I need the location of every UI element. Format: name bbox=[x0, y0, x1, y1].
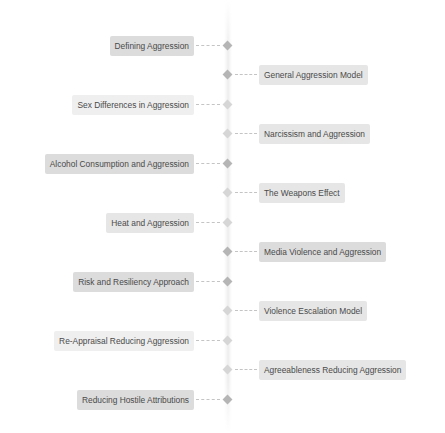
topic-label[interactable]: Heat and Aggression bbox=[106, 213, 194, 233]
timeline-item: Heat and Aggression bbox=[0, 213, 445, 233]
connector-line bbox=[196, 163, 220, 164]
diamond-node-icon bbox=[223, 129, 233, 139]
topic-label[interactable]: Sex Differences in Aggression bbox=[72, 95, 194, 115]
diamond-node-icon bbox=[223, 41, 233, 51]
connector-line bbox=[196, 45, 220, 46]
topic-label[interactable]: The Weapons Effect bbox=[259, 183, 345, 203]
diamond-node-icon bbox=[223, 395, 233, 405]
connector-line bbox=[235, 192, 257, 193]
topic-label[interactable]: Re-Appraisal Reducing Aggression bbox=[54, 331, 194, 351]
connector-line bbox=[196, 340, 220, 341]
topic-label[interactable]: Narcissism and Aggression bbox=[259, 124, 370, 144]
topic-label[interactable]: Defining Aggression bbox=[110, 36, 195, 56]
timeline-item: Media Violence and Aggression bbox=[0, 242, 445, 262]
timeline-item: Risk and Resiliency Approach bbox=[0, 272, 445, 292]
timeline-item: Sex Differences in Aggression bbox=[0, 95, 445, 115]
timeline-item: Violence Escalation Model bbox=[0, 301, 445, 321]
timeline-item: Agreeableness Reducing Aggression bbox=[0, 360, 445, 380]
diamond-node-icon bbox=[223, 336, 233, 346]
connector-line bbox=[235, 310, 257, 311]
topic-label[interactable]: Reducing Hostile Attributions bbox=[77, 390, 194, 410]
diamond-node-icon bbox=[223, 306, 233, 316]
topic-label[interactable]: General Aggression Model bbox=[259, 65, 368, 85]
connector-line bbox=[235, 369, 257, 370]
timeline-item: Defining Aggression bbox=[0, 36, 445, 56]
timeline-item: Alcohol Consumption and Aggression bbox=[0, 154, 445, 174]
connector-line bbox=[235, 74, 257, 75]
diamond-node-icon bbox=[223, 277, 233, 287]
connector-line bbox=[196, 281, 220, 282]
timeline-item: General Aggression Model bbox=[0, 65, 445, 85]
connector-line bbox=[235, 133, 257, 134]
topic-label[interactable]: Risk and Resiliency Approach bbox=[73, 272, 194, 292]
diamond-node-icon bbox=[223, 188, 233, 198]
timeline-item: Reducing Hostile Attributions bbox=[0, 390, 445, 410]
connector-line bbox=[196, 104, 220, 105]
diamond-node-icon bbox=[223, 365, 233, 375]
diamond-node-icon bbox=[223, 70, 233, 80]
timeline-item: The Weapons Effect bbox=[0, 183, 445, 203]
diamond-node-icon bbox=[223, 100, 233, 110]
diamond-node-icon bbox=[223, 159, 233, 169]
connector-line bbox=[196, 222, 220, 223]
connector-line bbox=[196, 399, 220, 400]
timeline-item: Narcissism and Aggression bbox=[0, 124, 445, 144]
connector-line bbox=[235, 251, 257, 252]
topic-label[interactable]: Agreeableness Reducing Aggression bbox=[259, 360, 406, 380]
diamond-node-icon bbox=[223, 247, 233, 257]
topic-label[interactable]: Alcohol Consumption and Aggression bbox=[45, 154, 194, 174]
diamond-node-icon bbox=[223, 218, 233, 228]
topic-label[interactable]: Media Violence and Aggression bbox=[259, 242, 386, 262]
timeline-item: Re-Appraisal Reducing Aggression bbox=[0, 331, 445, 351]
topic-label[interactable]: Violence Escalation Model bbox=[259, 301, 367, 321]
